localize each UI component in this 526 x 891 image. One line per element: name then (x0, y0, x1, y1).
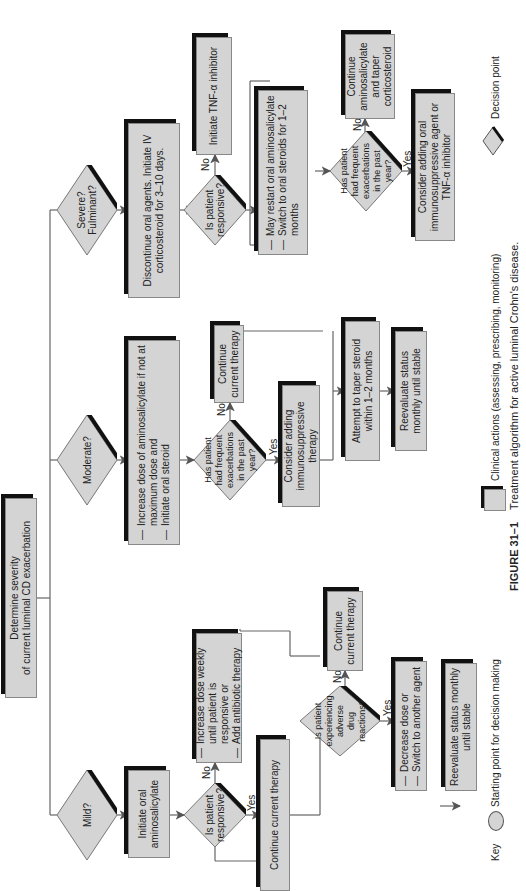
severe-decision: Severe? Fulminant? (57, 165, 117, 255)
mild-increase-dose-item: Increase dose weekly until patient is re… (195, 638, 231, 758)
mild-increase-dose-box: Increase dose weekly until patient is re… (196, 633, 242, 763)
figure-number: FIGURE 31–1 (508, 522, 520, 591)
mild-decrease-dose-box: Decrease dose orSwitch to another agent (395, 661, 427, 791)
severe-no-label: No (200, 158, 211, 171)
moderate-frequent-decision: Has patient had frequent exacerbations i… (194, 420, 266, 500)
moderate-continue-box: Continue current therapy (214, 325, 244, 403)
severe-restart-item: May restart oral aminosalicylate (265, 95, 277, 250)
mild-adverse-decision: Is patient experiencing adverse drug rea… (300, 686, 380, 756)
severe-responsive-decision: Is patient responsive? (184, 175, 246, 245)
start-box: Determine severityof current luminal CD … (5, 498, 37, 698)
moderate-decision-label: Moderate? (57, 415, 117, 505)
mild-reevaluate-box: Reevaluate status monthly until stable (445, 663, 477, 791)
severe-freq-no-label: No (352, 118, 363, 131)
moderate-yes-label: Yes (268, 439, 279, 455)
moderate-decision: Moderate? (57, 415, 117, 505)
moderate-no-label: No (216, 403, 227, 416)
mild-add-antibiotic-item: Add antibiotic therapy (231, 638, 243, 758)
mild-decision-label: Mild? (57, 770, 117, 860)
mild-adverse-label: Is patient experiencing adverse drug rea… (300, 686, 380, 756)
mild-adverse-yes-label: Yes (382, 700, 393, 716)
severe-switch-oral-item: Switch to oral steroids for 1–2 months (277, 95, 301, 250)
key-decision-text: Decision point (490, 56, 501, 119)
mild-no-label: No (201, 766, 212, 779)
mild-responsive-label: Is patient responsive? (184, 783, 246, 847)
severe-tnf-box: Initiate TNF-α inhibitor (196, 37, 232, 155)
start-line1: Determine severity (9, 521, 21, 675)
severe-consider-box: Consider adding oral immunosuppressive a… (415, 93, 455, 241)
mild-switch-agent-item: Switch to another agent (411, 667, 423, 786)
mild-yes-label: Yes (246, 795, 257, 811)
moderate-immunosuppressive-box: Consider adding immunosuppressive therap… (282, 385, 320, 507)
mild-adverse-continue-box: Continue current therapy (327, 591, 363, 671)
moderate-frequent-label: Has patient had frequent exacerbations i… (194, 420, 266, 500)
moderate-taper-box: Attempt to taper steroid within 1–2 mont… (345, 321, 380, 461)
figure-caption: FIGURE 31–1Treatment algorithm for activ… (508, 242, 520, 591)
key-start-oval (488, 811, 504, 831)
key-decision-diamond (482, 126, 504, 156)
mild-initiate-box: Initiate oral aminosalicylate (128, 770, 170, 858)
severe-continue-taper-box: Continue aminosalicylate and taper corti… (345, 34, 395, 119)
severe-iv-box: Discontinue oral agents. Initiate IV cor… (128, 123, 180, 298)
severe-frequent-decision: Has patient had frequent exacerbations i… (330, 131, 402, 211)
figure-caption-text: Treatment algorithm for active luminal C… (508, 242, 520, 510)
mild-adverse-no-label: No (332, 670, 343, 683)
key-title: Key (490, 844, 501, 861)
moderate-reevaluate-box: Reevaluate status monthly until stable (395, 331, 427, 451)
severe-responsive-label: Is patient responsive? (184, 175, 246, 245)
mild-continue-box: Continue current therapy (260, 739, 290, 891)
key-clinical-box (484, 489, 506, 511)
severe-restart-box: May restart oral aminosalicylateSwitch t… (258, 90, 308, 255)
moderate-oral-steroid-item: Initiate oral steroid (160, 345, 172, 540)
severe-frequent-label: Has patient had frequent exacerbations i… (330, 131, 402, 211)
key-clinical-text: Clinical actions (assessing, prescribing… (490, 254, 501, 481)
moderate-increase-dose-item: Increase dose of aminosalicylate if not … (136, 345, 160, 540)
flowchart-canvas: Determine severityof current luminal CD … (0, 0, 526, 891)
key-start-text: Starting point for decision making (490, 659, 501, 807)
mild-responsive-decision: Is patient responsive? (184, 783, 246, 847)
moderate-increase-box: Increase dose of aminosalicylate if not … (128, 340, 180, 545)
mild-decrease-dose-item: Decrease dose or (399, 667, 411, 786)
severe-freq-yes-label: Yes (402, 151, 413, 167)
severe-decision-label: Severe? Fulminant? (57, 165, 117, 255)
mild-decision: Mild? (57, 770, 117, 860)
start-line2: of current luminal CD exacerbation (21, 521, 33, 675)
